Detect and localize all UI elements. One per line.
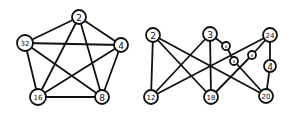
node-4: 4 xyxy=(114,38,128,52)
edge-4-32 xyxy=(25,43,121,45)
node-label: 6 xyxy=(233,59,236,64)
node-8: 8 xyxy=(95,90,109,104)
node-18: 18 xyxy=(204,90,218,104)
node-20: 20 xyxy=(259,89,273,103)
edge-4-8 xyxy=(102,45,121,97)
node-label: 4 xyxy=(118,41,124,51)
node-6: 6 xyxy=(222,42,230,50)
node-2: 2 xyxy=(146,28,160,42)
node-label: 32 xyxy=(21,40,30,48)
node-label: 24 xyxy=(266,32,275,40)
node-label: 6 xyxy=(251,53,254,58)
node-label: 4 xyxy=(267,62,273,72)
node-6: 6 xyxy=(248,51,256,59)
node-label: 3 xyxy=(207,30,213,40)
node-label: 6 xyxy=(225,44,228,49)
node-24: 24 xyxy=(263,28,277,42)
node-2: 2 xyxy=(72,10,86,24)
node-label: 12 xyxy=(147,94,156,102)
node-label: 8 xyxy=(99,93,105,103)
node-4: 4 xyxy=(264,60,276,72)
left-graph: 2481632 xyxy=(17,10,128,105)
edge-2-32 xyxy=(25,17,79,43)
node-6: 6 xyxy=(230,57,238,65)
node-label: 20 xyxy=(262,93,271,101)
node-12: 12 xyxy=(144,90,158,104)
node-label: 18 xyxy=(207,94,216,102)
node-3: 3 xyxy=(203,27,217,41)
diagram-canvas: 2481632 23246664121820 xyxy=(0,0,293,116)
node-32: 32 xyxy=(17,35,33,51)
right-graph: 23246664121820 xyxy=(144,27,277,104)
edge-2-12 xyxy=(151,35,153,97)
edge-2-18 xyxy=(153,35,211,97)
node-16: 16 xyxy=(30,89,46,105)
node-label: 2 xyxy=(150,31,156,41)
node-label: 2 xyxy=(76,13,82,23)
node-label: 16 xyxy=(34,94,43,102)
